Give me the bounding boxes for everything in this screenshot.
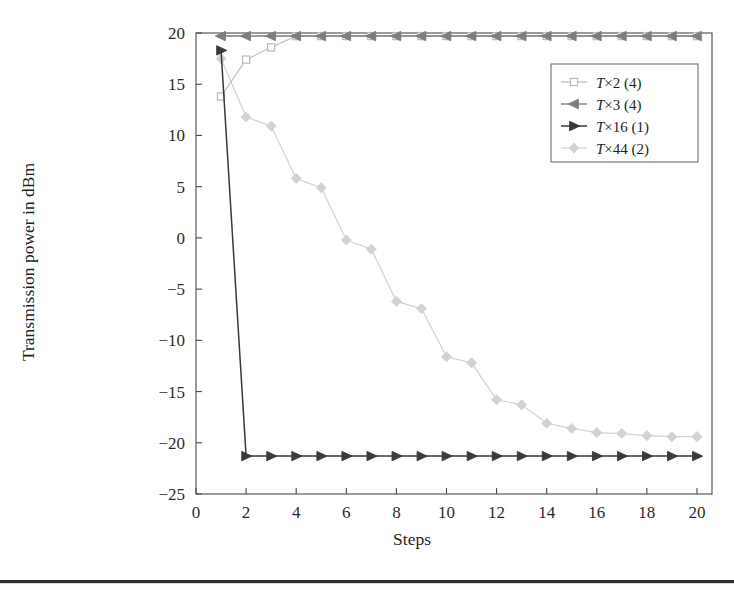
data-point-diamond bbox=[567, 423, 577, 433]
data-point-triangle-right bbox=[367, 451, 377, 460]
x-tick-label: 6 bbox=[342, 503, 351, 522]
data-point-diamond bbox=[241, 112, 251, 122]
data-point-diamond bbox=[517, 400, 527, 410]
legend-label: T×44 (2) bbox=[596, 141, 649, 158]
y-tick-label: 10 bbox=[168, 126, 185, 145]
data-point-diamond bbox=[542, 418, 552, 428]
x-tick-label: 20 bbox=[688, 503, 705, 522]
page-bottom-rule bbox=[0, 580, 734, 583]
data-point-triangle-right bbox=[442, 451, 452, 460]
data-point-diamond bbox=[466, 358, 476, 368]
data-point-diamond bbox=[642, 431, 652, 441]
data-point-diamond bbox=[266, 121, 276, 131]
data-point-triangle-right bbox=[693, 451, 703, 460]
x-axis-title: Steps bbox=[393, 529, 431, 549]
x-tick-label: 2 bbox=[242, 503, 251, 522]
legend-label: T×16 (1) bbox=[596, 119, 649, 136]
data-point-diamond bbox=[341, 235, 351, 245]
y-tick-label: −20 bbox=[158, 434, 185, 453]
x-tick-label: 14 bbox=[538, 503, 556, 522]
data-point-triangle-right bbox=[317, 451, 327, 460]
figure-container: 20151050−5−10−15−20−25 02468101214161820… bbox=[0, 0, 734, 593]
data-point-diamond bbox=[667, 432, 677, 442]
x-tick-label: 4 bbox=[292, 503, 301, 522]
y-tick-label: 5 bbox=[177, 178, 186, 197]
data-point-triangle-right bbox=[242, 451, 252, 460]
x-tick-label: 16 bbox=[588, 503, 605, 522]
data-point-triangle-right bbox=[567, 451, 577, 460]
data-point-triangle-right bbox=[417, 451, 427, 460]
x-tick-label: 8 bbox=[392, 503, 401, 522]
data-point-triangle-right bbox=[492, 451, 502, 460]
data-point-diamond bbox=[291, 173, 301, 183]
y-tick-label: 20 bbox=[168, 24, 185, 43]
legend-label: T×3 (4) bbox=[596, 97, 642, 114]
data-point-triangle-right bbox=[592, 451, 602, 460]
data-point-square bbox=[268, 44, 275, 51]
y-tick-label: 0 bbox=[177, 229, 186, 248]
y-tick-label: −15 bbox=[158, 383, 185, 402]
data-point-triangle-right bbox=[392, 451, 402, 460]
data-point-triangle-right bbox=[617, 451, 627, 460]
data-point-diamond bbox=[492, 395, 502, 405]
data-point-square bbox=[243, 56, 250, 63]
y-tick-label: −5 bbox=[167, 280, 185, 299]
data-point-diamond bbox=[692, 432, 702, 442]
legend-label: T×2 (4) bbox=[596, 75, 642, 92]
x-axis-ticks: 02468101214161820 bbox=[192, 488, 706, 522]
data-point-triangle-right bbox=[643, 451, 653, 460]
chart-canvas: 20151050−5−10−15−20−25 02468101214161820… bbox=[0, 0, 734, 593]
data-point-diamond bbox=[316, 183, 326, 193]
legend-label-suffix: ×2 (4) bbox=[604, 75, 641, 92]
chart-legend[interactable]: T×2 (4)T×3 (4)T×16 (1)T×44 (2) bbox=[551, 64, 698, 162]
data-point-diamond bbox=[391, 296, 401, 306]
data-point-triangle-right bbox=[292, 451, 302, 460]
legend-label-suffix: ×44 (2) bbox=[604, 141, 649, 158]
data-point-triangle-right bbox=[542, 451, 552, 460]
y-tick-label: 15 bbox=[168, 75, 185, 94]
y-tick-label: −10 bbox=[158, 331, 185, 350]
y-axis-title: Transmission power in dBm bbox=[18, 163, 38, 362]
data-point-diamond bbox=[441, 352, 451, 362]
x-tick-label: 0 bbox=[192, 503, 201, 522]
x-tick-label: 18 bbox=[638, 503, 655, 522]
data-point-diamond bbox=[592, 427, 602, 437]
legend-label-suffix: ×3 (4) bbox=[604, 97, 641, 114]
data-point-diamond bbox=[416, 304, 426, 314]
data-point-triangle-right bbox=[467, 451, 477, 460]
data-point-square bbox=[570, 78, 577, 85]
x-tick-label: 10 bbox=[438, 503, 455, 522]
data-point-diamond bbox=[617, 428, 627, 438]
legend-label-suffix: ×16 (1) bbox=[604, 119, 649, 136]
data-point-triangle-right bbox=[517, 451, 527, 460]
x-tick-label: 12 bbox=[488, 503, 505, 522]
data-point-diamond bbox=[366, 244, 376, 254]
data-point-triangle-right bbox=[668, 451, 678, 460]
data-point-triangle-right bbox=[342, 451, 352, 460]
y-tick-label: −25 bbox=[158, 485, 185, 504]
data-point-triangle-right bbox=[267, 451, 277, 460]
